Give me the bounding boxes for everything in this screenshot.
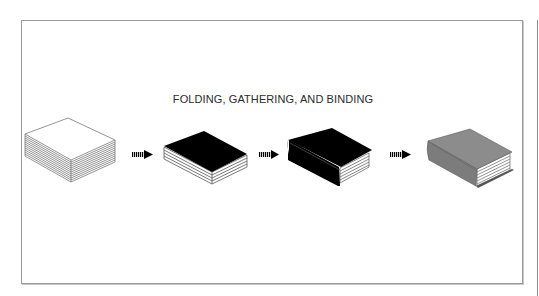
- striped-right-arrow-icon: [132, 150, 153, 159]
- gray-bound-book-icon: [427, 129, 514, 188]
- striped-right-arrow-icon: [259, 150, 279, 159]
- striped-right-arrow-icon: [390, 150, 411, 159]
- folded-pages-stack-icon: [25, 118, 115, 182]
- black-bound-book-icon: [288, 128, 372, 186]
- gathered-block-icon: [164, 131, 247, 184]
- process-illustration: [0, 0, 539, 296]
